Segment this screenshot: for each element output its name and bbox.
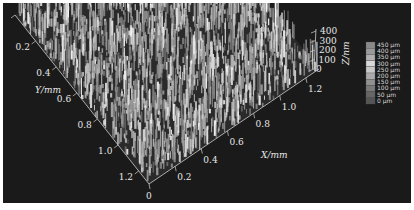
z-tick-label: 300	[320, 36, 337, 46]
colorbar-swatch	[366, 48, 375, 54]
colorbar-swatch	[366, 92, 375, 98]
surface-plot: 00.20.40.60.81.01.2 Y/mm 00.20.40.60.81.…	[3, 3, 411, 203]
x-tick-label: 0.8	[256, 119, 271, 129]
colorbar-label: 0 μm	[377, 97, 393, 105]
x-axis-label: X/mm	[260, 150, 288, 160]
y-tick-label: 1.2	[119, 172, 133, 182]
colorbar-swatch	[366, 85, 375, 91]
y-tick-label: 0.6	[57, 94, 72, 104]
z-tick-label: 400	[320, 26, 337, 36]
x-tick-label: 0.2	[177, 172, 191, 182]
x-tick-label: 1.0	[282, 102, 297, 112]
colorbar-swatch	[366, 42, 375, 48]
colorbar: 450 μm400 μm350 μm300 μm250 μm200 μm150 …	[366, 41, 400, 105]
y-tick-label: 0.8	[78, 120, 93, 130]
y-tick-label: 0.2	[16, 42, 30, 52]
surface-plot-panel: 00.20.40.60.81.01.2 Y/mm 00.20.40.60.81.…	[3, 3, 411, 203]
z-tick-label: 0	[316, 64, 322, 74]
colorbar-swatch	[366, 67, 375, 73]
colorbar-swatch	[366, 61, 375, 67]
x-tick-label: 0.4	[203, 155, 218, 165]
z-tick-label: 100	[319, 55, 336, 65]
y-tick-label: 1.0	[98, 146, 113, 156]
y-tick-label: 0.4	[36, 68, 51, 78]
colorbar-swatch	[366, 73, 375, 79]
z-tick-label: 200	[319, 45, 336, 55]
colorbar-swatch	[366, 79, 375, 85]
x-tick-label: 0.6	[230, 137, 245, 147]
z-axis-label: Z/nm	[341, 41, 351, 66]
colorbar-swatch	[366, 98, 375, 104]
x-tick-label: 1.2	[308, 84, 322, 94]
x-tick-label: 0	[146, 191, 152, 201]
y-axis-label: Y/mm	[35, 85, 61, 95]
colorbar-swatch	[366, 54, 375, 60]
